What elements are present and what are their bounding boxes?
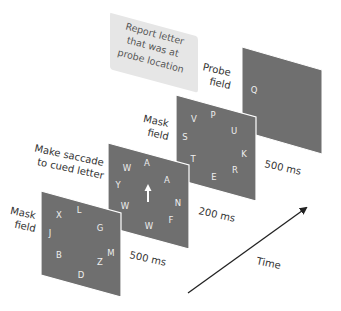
probe-label-line-2: field [208,76,231,91]
time-axis: Time [188,208,306,293]
probe-label-line-1: Probe [202,61,232,78]
panel-letter: D [78,270,85,280]
time-label: Time [255,255,282,271]
panel-letter: X [56,210,62,220]
mask1-label-line-2: field [13,219,36,234]
mask2-label-line-1: Mask [142,113,170,129]
panel-letter: P [210,110,215,120]
time-arrow-icon [188,208,306,293]
mask-field-2-label: Mask field [142,113,170,142]
visual-search-saccade-diagram: Report letter that was at probe location… [0,0,341,311]
panel-letter: T [189,154,196,164]
panel-letter: W [123,163,132,173]
panel-letter: V [191,114,197,124]
panel-letter: F [169,215,174,225]
panel-letter: Q [251,85,258,95]
duration-mask-field-2: 500 ms [264,158,303,176]
panel-letter: W [121,201,130,211]
panel-letter: B [56,250,62,260]
panel-letter: L [77,205,82,215]
panel-letter: E [211,172,216,182]
panel-letter: S [182,132,187,142]
panel-letter: U [231,126,237,136]
mask-field-1-label: Mask field [9,205,37,234]
panel-letter: K [241,149,247,159]
duration-mask-field-1: 500 ms [129,249,168,267]
mask2-label-line-2: field [146,127,169,142]
panel-letter: G [97,223,104,233]
panel-letter: A [164,175,170,185]
panel-letter: M [107,248,114,258]
panel-letter: J [48,228,52,238]
panel-letter: R [232,165,238,175]
callout-box: Report letter that was at probe location [110,13,198,92]
saccade-field-label: Make saccade to cued letter [34,143,106,182]
panel-letter: W [145,221,154,231]
panel-letter: N [175,198,181,208]
mask1-label-line-1: Mask [9,205,37,221]
duration-saccade-field: 200 ms [198,205,237,223]
panel-letter: Z [97,257,103,267]
panel-letter: A [144,158,150,168]
panel-letter: Y [114,180,121,190]
probe-field-label: Probe field [202,61,232,91]
